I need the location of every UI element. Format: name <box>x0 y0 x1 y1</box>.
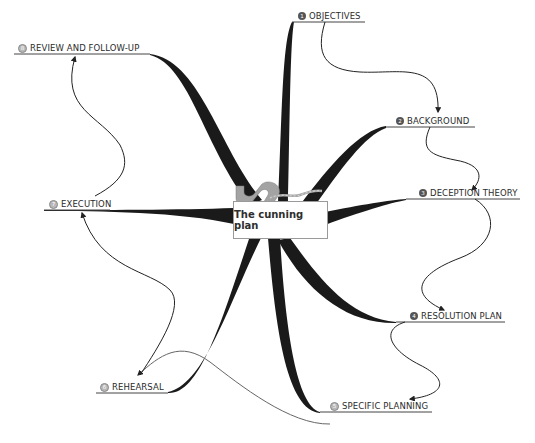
arrow-resolution-to-specific <box>391 322 440 399</box>
node-label: RESOLUTION PLAN <box>421 311 502 321</box>
node-label: REVIEW AND FOLLOW-UP <box>30 43 139 53</box>
branches <box>44 22 406 413</box>
arrow-rehearsal-to-execution <box>82 213 175 375</box>
arrow-objectives-to-background <box>321 22 438 112</box>
node-specific-planning[interactable]: 5 SPECIFIC PLANNING <box>330 401 428 411</box>
arrow-execution-to-review <box>72 57 125 196</box>
node-label: BACKGROUND <box>407 116 469 126</box>
number-badge-icon: 5 <box>330 402 339 411</box>
central-topic[interactable]: The cunning plan <box>233 201 328 239</box>
node-deception-theory[interactable]: 3 DECEPTION THEORY <box>419 188 518 198</box>
node-label: EXECUTION <box>61 199 111 209</box>
node-background[interactable]: 2 BACKGROUND <box>396 116 469 126</box>
number-badge-icon: 3 <box>419 189 427 197</box>
node-review-and-follow-up[interactable]: 8 REVIEW AND FOLLOW-UP <box>18 43 139 53</box>
node-execution[interactable]: 7 EXECUTION <box>49 199 111 209</box>
branch-resolution <box>278 238 396 323</box>
arrow-background-to-deception <box>426 127 479 190</box>
node-label: REHEARSAL <box>112 382 164 392</box>
branch-deception <box>325 199 406 225</box>
number-badge-icon: 1 <box>298 12 306 20</box>
node-objectives[interactable]: 1 OBJECTIVES <box>298 11 361 21</box>
node-rehearsal[interactable]: 6 REHEARSAL <box>100 382 164 392</box>
central-topic-label: The cunning plan <box>234 209 327 231</box>
node-label: OBJECTIVES <box>309 11 361 21</box>
number-badge-icon: 6 <box>100 383 109 392</box>
branch-background <box>300 126 386 210</box>
number-badge-icon: 2 <box>396 117 404 125</box>
number-badge-icon: 4 <box>410 312 418 320</box>
branch-objectives <box>278 22 294 205</box>
node-resolution-plan[interactable]: 4 RESOLUTION PLAN <box>410 311 502 321</box>
number-badge-icon: 7 <box>49 200 58 209</box>
node-label: SPECIFIC PLANNING <box>342 401 428 411</box>
branch-review <box>150 54 262 205</box>
number-badge-icon: 8 <box>18 44 27 53</box>
arrow-deception-to-resolution <box>422 199 491 310</box>
node-label: DECEPTION THEORY <box>430 188 518 198</box>
branch-rehearsal <box>168 236 262 393</box>
